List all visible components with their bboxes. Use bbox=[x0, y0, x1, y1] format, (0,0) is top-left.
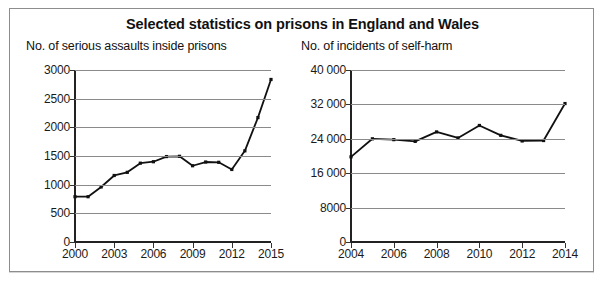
data-point-marker bbox=[113, 174, 116, 177]
x-axis-tick-label: 2009 bbox=[180, 247, 206, 261]
figure-root: Selected statistics on prisons in Englan… bbox=[0, 0, 606, 283]
panel-title-left: No. of serious assaults inside prisons bbox=[26, 39, 312, 53]
x-axis-tick-label: 2015 bbox=[258, 247, 284, 261]
y-axis-tick bbox=[70, 70, 75, 71]
y-axis-tick-label: 24 000 bbox=[310, 132, 346, 146]
data-point-marker bbox=[243, 149, 246, 152]
chart-serious-assaults: 050010001500200025003000 200020032006200… bbox=[14, 61, 300, 266]
x-axis-tick-label: 2000 bbox=[62, 247, 88, 261]
top-caption bbox=[0, 0, 606, 6]
plot-area-right bbox=[351, 70, 565, 242]
data-point-marker bbox=[230, 168, 233, 171]
gridline bbox=[75, 156, 271, 157]
figure-frame: Selected statistics on prisons in Englan… bbox=[9, 8, 594, 272]
gridline bbox=[351, 173, 565, 174]
data-point-marker bbox=[349, 155, 352, 158]
gridline bbox=[75, 213, 271, 214]
plot-area-left bbox=[75, 70, 271, 242]
y-axis-tick-label: 500 bbox=[51, 206, 70, 220]
data-point-marker bbox=[435, 130, 438, 133]
x-axis-tick-label: 2006 bbox=[381, 247, 407, 261]
gridline bbox=[75, 127, 271, 128]
y-axis-tick bbox=[346, 70, 351, 71]
y-axis-tick-label: 40 000 bbox=[310, 63, 346, 77]
x-axis-tick-label: 2003 bbox=[101, 247, 127, 261]
y-axis-tick bbox=[346, 208, 351, 209]
series-polyline bbox=[351, 104, 565, 157]
data-point-marker bbox=[100, 185, 103, 188]
data-point-marker bbox=[414, 140, 417, 143]
figure-title: Selected statistics on prisons in Englan… bbox=[10, 16, 595, 32]
gridline bbox=[75, 99, 271, 100]
y-axis-tick bbox=[70, 156, 75, 157]
panel-self-harm: No. of incidents of self-harm 0800016 00… bbox=[295, 39, 591, 269]
data-point-marker bbox=[152, 160, 155, 163]
data-point-marker bbox=[217, 161, 220, 164]
data-point-marker bbox=[478, 124, 481, 127]
gridline bbox=[75, 70, 271, 71]
gridline bbox=[75, 185, 271, 186]
y-axis-tick bbox=[346, 173, 351, 174]
panel-title-right: No. of incidents of self-harm bbox=[301, 39, 597, 53]
y-axis-tick bbox=[70, 185, 75, 186]
x-axis-tick-label: 2010 bbox=[466, 247, 492, 261]
y-axis-tick bbox=[346, 139, 351, 140]
x-axis-tick-label: 2008 bbox=[424, 247, 450, 261]
y-axis-tick-label: 2000 bbox=[44, 120, 70, 134]
x-axis-labels-left: 200020032006200920122015 bbox=[75, 247, 271, 263]
series-line-right bbox=[351, 70, 565, 242]
y-axis-labels-right: 0800016 00024 00032 00040 000 bbox=[295, 70, 346, 242]
x-axis-tick-label: 2006 bbox=[140, 247, 166, 261]
data-point-marker bbox=[256, 116, 259, 119]
chart-self-harm: 0800016 00024 00032 00040 000 2004200620… bbox=[295, 61, 591, 266]
data-point-marker bbox=[191, 164, 194, 167]
data-point-marker bbox=[499, 134, 502, 137]
x-axis-tick-label: 2012 bbox=[509, 247, 535, 261]
x-axis-tick-label: 2014 bbox=[552, 247, 578, 261]
y-axis-tick-label: 2500 bbox=[44, 92, 70, 106]
gridline bbox=[351, 208, 565, 209]
y-axis-tick bbox=[346, 104, 351, 105]
x-axis-labels-right: 200420062008201020122014 bbox=[351, 247, 565, 263]
y-axis-tick bbox=[70, 99, 75, 100]
series-polyline bbox=[75, 79, 271, 196]
y-axis-tick bbox=[70, 213, 75, 214]
panel-serious-assaults: No. of serious assaults inside prisons 0… bbox=[14, 39, 300, 269]
y-axis-tick-label: 32 000 bbox=[310, 97, 346, 111]
data-point-marker bbox=[73, 195, 76, 198]
data-point-marker bbox=[86, 195, 89, 198]
y-axis-labels-left: 050010001500200025003000 bbox=[14, 70, 70, 242]
y-axis-tick-label: 1500 bbox=[44, 149, 70, 163]
gridline bbox=[351, 70, 565, 71]
y-axis-tick bbox=[70, 127, 75, 128]
y-axis-tick-label: 3000 bbox=[44, 63, 70, 77]
data-point-marker bbox=[139, 162, 142, 165]
gridline bbox=[351, 104, 565, 105]
y-axis-tick-label: 1000 bbox=[44, 178, 70, 192]
data-point-marker bbox=[126, 171, 129, 174]
y-axis-tick-label: 8000 bbox=[320, 201, 346, 215]
data-point-marker bbox=[269, 78, 272, 81]
x-axis-tick-label: 2004 bbox=[338, 247, 364, 261]
x-axis-tick-label: 2012 bbox=[219, 247, 245, 261]
data-point-marker bbox=[204, 160, 207, 163]
y-axis-tick-label: 16 000 bbox=[310, 166, 346, 180]
gridline bbox=[351, 139, 565, 140]
data-point-marker bbox=[521, 139, 524, 142]
